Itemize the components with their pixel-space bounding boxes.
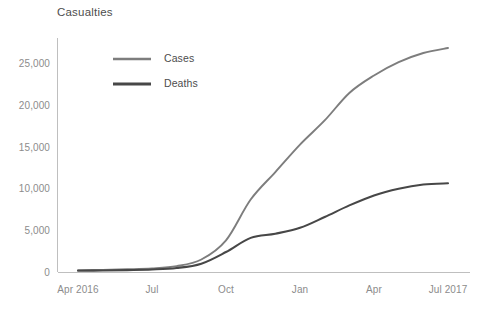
x-tick-label: Jan bbox=[292, 284, 308, 295]
x-axis-tick-labels: Apr 2016JulOctJanAprJul 2017 bbox=[57, 284, 467, 295]
series-lines-group bbox=[78, 48, 448, 271]
chart-plot-area: 05,00010,00015,00020,00025,000 Apr 2016J… bbox=[0, 0, 491, 311]
casualties-line-chart: Casualties 05,00010,00015,00020,00025,00… bbox=[0, 0, 491, 311]
y-tick-label: 0 bbox=[44, 267, 50, 278]
series-line-deaths bbox=[78, 183, 448, 270]
chart-legend: CasesDeaths bbox=[113, 52, 198, 89]
series-line-cases bbox=[78, 48, 448, 270]
x-tick-label: Apr 2016 bbox=[57, 284, 99, 295]
y-tick-label: 15,000 bbox=[19, 142, 51, 153]
x-tick-label: Jul bbox=[145, 284, 158, 295]
legend-label-deaths[interactable]: Deaths bbox=[164, 77, 198, 89]
y-tick-label: 10,000 bbox=[19, 183, 51, 194]
x-tick-label: Jul 2017 bbox=[429, 284, 468, 295]
x-tick-label: Apr bbox=[366, 284, 382, 295]
y-tick-label: 5,000 bbox=[24, 225, 50, 236]
y-tick-label: 20,000 bbox=[19, 100, 51, 111]
legend-label-cases[interactable]: Cases bbox=[164, 52, 194, 64]
x-tick-label: Oct bbox=[218, 284, 234, 295]
y-axis-tick-labels: 05,00010,00015,00020,00025,000 bbox=[19, 58, 51, 277]
y-tick-label: 25,000 bbox=[19, 58, 51, 69]
